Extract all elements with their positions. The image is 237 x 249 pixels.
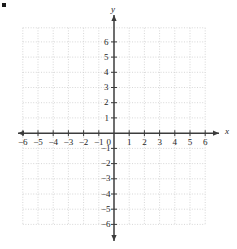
- y-tick-label-1: 1: [105, 114, 110, 123]
- x-tick-label-1: 1: [127, 138, 132, 147]
- y-tick-label-4: 4: [104, 68, 109, 77]
- y-tick-label--1: −1: [101, 144, 111, 153]
- x-tick-label-4: 4: [173, 138, 178, 147]
- y-tick-label--3: −3: [101, 174, 111, 183]
- y-tick-label-2: 2: [104, 98, 109, 107]
- y-axis-arrow-up: [111, 15, 116, 21]
- y-tick-label--4: −4: [101, 190, 111, 199]
- y-axis-label: y: [111, 5, 115, 14]
- x-tick-label--2: −2: [79, 138, 89, 147]
- y-tick-label-6: 6: [104, 38, 109, 47]
- y-tick-label--6: −6: [101, 220, 111, 229]
- y-tick-label-3: 3: [104, 83, 109, 92]
- y-axis-arrow-down: [111, 235, 116, 241]
- x-tick-label--3: −3: [64, 138, 74, 147]
- x-tick-label-5: 5: [188, 138, 193, 147]
- coordinate-plane-graphic: [0, 0, 237, 249]
- y-tick-label--2: −2: [101, 159, 111, 168]
- axis-lines: [18, 15, 219, 241]
- x-axis-label: x: [225, 127, 229, 136]
- x-tick-label-2: 2: [142, 138, 147, 147]
- x-tick-label-6: 6: [203, 138, 208, 147]
- x-tick-label-3: 3: [157, 138, 162, 147]
- x-axis-arrow-right: [213, 131, 219, 136]
- x-tick-label--4: −4: [48, 138, 58, 147]
- x-tick-label--5: −5: [33, 138, 43, 147]
- coordinate-plane-figure: −6 −5 −4 −3 −2 −1 0 1 2 3 4 5 6 6 5 4 3 …: [0, 0, 237, 249]
- y-tick-label--5: −5: [101, 205, 111, 214]
- axis-arrowheads: [18, 15, 219, 241]
- x-tick-label--6: −6: [18, 138, 28, 147]
- y-tick-label-5: 5: [104, 53, 109, 62]
